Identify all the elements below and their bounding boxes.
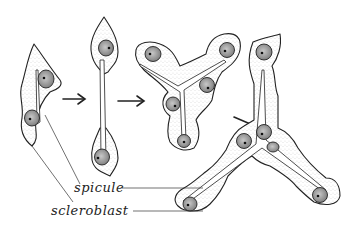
- spicule: [100, 60, 106, 160]
- nucleolus: [207, 87, 210, 90]
- nucleolus: [174, 105, 177, 108]
- nucleolus: [149, 53, 152, 56]
- stage-2: [91, 17, 118, 176]
- nucleus: [200, 78, 215, 93]
- nucleolus: [43, 77, 46, 80]
- nucleus: [256, 44, 272, 60]
- nucleolus: [29, 118, 32, 121]
- nucleus: [95, 149, 110, 165]
- nucleus: [166, 97, 180, 111]
- scleroblast-cell: [21, 44, 61, 146]
- nucleolus: [261, 133, 264, 136]
- nucleolus: [187, 204, 190, 207]
- nucleus: [257, 125, 272, 140]
- nucleus: [220, 43, 235, 58]
- nucleolus: [244, 142, 247, 145]
- nucleus: [267, 142, 279, 152]
- nucleolus: [224, 50, 227, 53]
- stage-1: [21, 44, 61, 146]
- arrow-icon: [63, 94, 85, 104]
- nucleolus: [108, 47, 111, 50]
- arrow-icon: [118, 96, 144, 106]
- nucleolus: [261, 52, 264, 55]
- nucleus: [237, 134, 252, 149]
- spicule-formation-diagram: spicule scleroblast: [0, 0, 354, 235]
- nucleus: [38, 70, 54, 88]
- nucleolus: [97, 157, 100, 160]
- label-scleroblast: scleroblast: [51, 203, 129, 218]
- nucleus: [313, 188, 328, 203]
- nucleus: [183, 197, 197, 211]
- nucleolus: [183, 141, 186, 144]
- stage-3: [135, 34, 240, 150]
- nucleus: [99, 40, 114, 56]
- nucleus: [25, 110, 40, 126]
- label-spicule: spicule: [74, 180, 124, 195]
- nucleus: [145, 47, 161, 62]
- nucleolus: [317, 195, 320, 198]
